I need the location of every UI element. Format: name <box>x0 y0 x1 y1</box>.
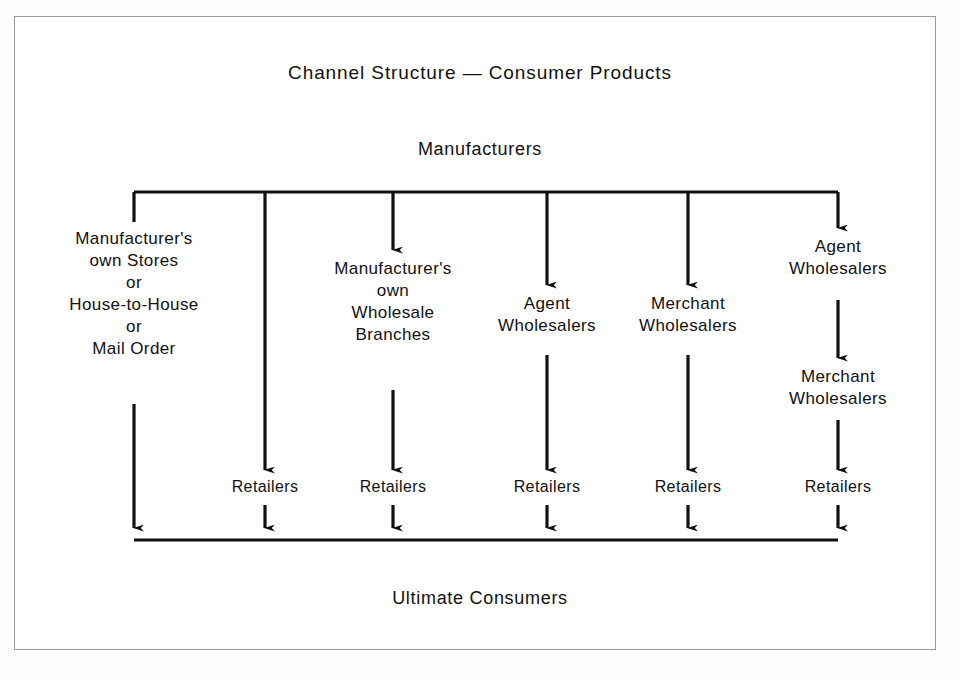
node-retailers-c4: Retailers <box>477 477 617 498</box>
node-line: Merchant <box>616 293 760 315</box>
page-title: Channel Structure — Consumer Products <box>0 62 960 84</box>
diagram-page: Channel Structure — Consumer Products Ma… <box>0 0 960 680</box>
node-line: Wholesalers <box>766 388 910 410</box>
node-line: or <box>24 316 244 338</box>
node-line: Manufacturer's <box>303 258 483 280</box>
node-line: Retailers <box>360 478 427 495</box>
node-retailers-c2: Retailers <box>195 477 335 498</box>
node-manufacturer-wholesale-branches: Manufacturer's own Wholesale Branches <box>303 258 483 346</box>
node-ultimate-consumers: Ultimate Consumers <box>0 588 960 609</box>
node-merchant-wholesalers-c6: Merchant Wholesalers <box>766 366 910 410</box>
node-line: Merchant <box>766 366 910 388</box>
node-line: Wholesalers <box>616 315 760 337</box>
node-line: Agent <box>766 236 910 258</box>
node-line: Agent <box>477 293 617 315</box>
node-merchant-wholesalers-c5: Merchant Wholesalers <box>616 293 760 337</box>
node-manufacturers: Manufacturers <box>0 139 960 160</box>
node-line: Manufacturer's <box>24 228 244 250</box>
node-agent-wholesalers-c4: Agent Wholesalers <box>477 293 617 337</box>
node-retailers-c5: Retailers <box>618 477 758 498</box>
node-line: House-to-House <box>24 294 244 316</box>
node-line: Retailers <box>514 478 581 495</box>
node-line: Wholesalers <box>766 258 910 280</box>
node-line: Retailers <box>805 478 872 495</box>
node-line: Branches <box>303 324 483 346</box>
node-line: Retailers <box>655 478 722 495</box>
node-line: own Stores <box>24 250 244 272</box>
node-line: Wholesale <box>303 302 483 324</box>
node-line: Mail Order <box>24 338 244 360</box>
node-line: Wholesalers <box>477 315 617 337</box>
node-retailers-c6: Retailers <box>768 477 908 498</box>
node-manufacturer-direct: Manufacturer's own Stores or House-to-Ho… <box>24 228 244 361</box>
node-agent-wholesalers-c6: Agent Wholesalers <box>766 236 910 280</box>
node-line: own <box>303 280 483 302</box>
node-line: Retailers <box>232 478 299 495</box>
node-retailers-c3: Retailers <box>323 477 463 498</box>
node-line: or <box>24 272 244 294</box>
